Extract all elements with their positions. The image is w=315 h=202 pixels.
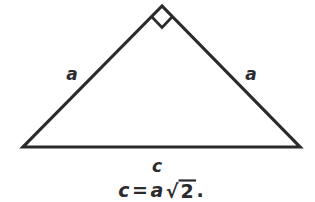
left-leg-label: a: [66, 64, 77, 84]
triangle-figure: a a c c = a √ 2 .: [0, 0, 315, 202]
radical-sign-icon: √: [166, 180, 179, 202]
triangle-drawing: a a c c = a √ 2 .: [0, 0, 315, 202]
base-label: c: [152, 156, 162, 176]
equation-terminator: .: [196, 179, 203, 201]
equation-lhs: c: [118, 179, 130, 201]
equation-radicand: 2: [180, 180, 193, 202]
equation-group: c = a √ 2 .: [118, 179, 203, 202]
right-leg-label: a: [245, 64, 256, 84]
equation-coefficient: a: [151, 179, 164, 201]
equation-relation: =: [132, 179, 148, 201]
